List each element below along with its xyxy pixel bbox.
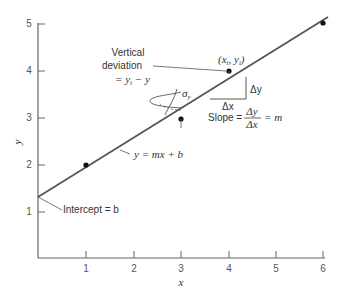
x-tick-5: 5 bbox=[273, 263, 279, 274]
x-tick-1: 1 bbox=[83, 263, 89, 274]
x-axis-label: x bbox=[178, 276, 184, 288]
y-tick-4: 4 bbox=[26, 65, 32, 76]
slope-prefix: Slope = bbox=[208, 112, 242, 123]
vertical-deviation-line2: deviation bbox=[102, 60, 142, 71]
slope-suffix: = m bbox=[264, 111, 282, 123]
gaussian-sketch: σy bbox=[150, 87, 191, 128]
x-tick-3: 3 bbox=[178, 263, 184, 274]
x-tick-6: 6 bbox=[320, 263, 326, 274]
y-tick-2: 2 bbox=[26, 159, 32, 170]
data-point bbox=[83, 162, 88, 167]
x-tick-2: 2 bbox=[131, 263, 137, 274]
y-tick-1: 1 bbox=[26, 206, 32, 217]
y-tick-3: 3 bbox=[26, 112, 32, 123]
sigma-label: σy bbox=[182, 87, 191, 101]
slope-equation: Slope = Δy Δx = m bbox=[208, 105, 282, 130]
least-squares-diagram: 5 4 3 2 1 1 2 3 4 5 6 x y Δy Δx (xi, yi)… bbox=[0, 0, 351, 308]
slope-numerator: Δy bbox=[245, 105, 257, 117]
regression-line bbox=[38, 17, 328, 197]
intercept-label: Intercept = b bbox=[63, 204, 119, 215]
data-point bbox=[320, 20, 325, 25]
point-label: (xi, yi) bbox=[218, 53, 245, 67]
delta-y-label: Δy bbox=[250, 84, 262, 95]
line-equation-label: y = mx + b bbox=[133, 148, 184, 160]
x-tick-4: 4 bbox=[226, 263, 232, 274]
vertical-deviation-annotation: Vertical deviation = yi − y bbox=[102, 47, 226, 87]
y-axis-label: y bbox=[11, 139, 23, 145]
slope-denominator: Δx bbox=[245, 118, 257, 130]
vertical-deviation-eq: = yi − y bbox=[115, 73, 150, 87]
delta-x-label: Δx bbox=[222, 101, 234, 112]
vertical-deviation-line1: Vertical bbox=[112, 47, 145, 58]
y-tick-5: 5 bbox=[26, 18, 32, 29]
